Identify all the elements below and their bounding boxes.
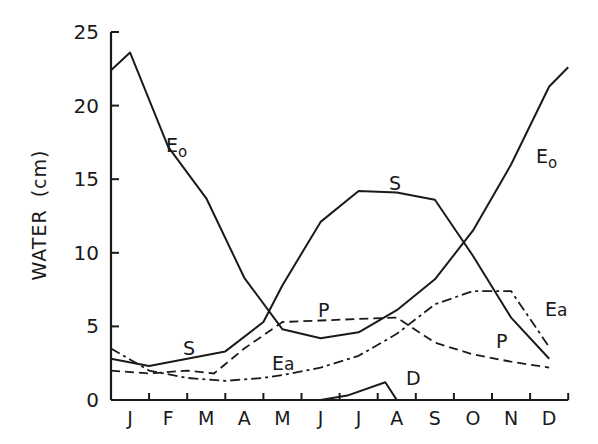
- y-tick-label: 5: [86, 314, 99, 338]
- month-label: D: [542, 407, 557, 429]
- label-ea-left: Ea: [272, 352, 294, 374]
- month-label: A: [238, 407, 251, 429]
- y-axis-label: WATER(cm): [28, 150, 50, 281]
- month-label: O: [465, 407, 480, 429]
- month-label: S: [429, 407, 441, 429]
- month-label: M: [274, 407, 290, 429]
- series-d-line: [321, 382, 397, 400]
- label-d: D: [406, 367, 421, 389]
- series-p-line: [111, 318, 549, 374]
- month-label: A: [390, 407, 403, 429]
- y-axis: 0510152025: [74, 20, 119, 412]
- y-tick-label: 10: [74, 241, 99, 265]
- month-label: J: [355, 407, 362, 429]
- label-eo-right: Eo: [536, 145, 557, 172]
- y-tick-label: 15: [74, 167, 99, 191]
- y-tick-label: 25: [74, 20, 99, 44]
- y-axis-label-main: WATER: [28, 209, 50, 280]
- series-s-line: [111, 191, 549, 366]
- x-axis: JFMAMJJASOND: [111, 393, 568, 429]
- month-label: J: [126, 407, 133, 429]
- water-balance-chart: 0510152025 JFMAMJJASOND WATER(cm) Eo Eo …: [0, 0, 598, 444]
- label-s-peak: S: [389, 172, 401, 194]
- label-p-right: P: [496, 330, 507, 352]
- y-axis-label-unit: (cm): [28, 150, 50, 198]
- y-tick-label: 0: [86, 388, 99, 412]
- month-label: N: [504, 407, 518, 429]
- month-label: M: [198, 407, 214, 429]
- series-eo-line: [111, 53, 568, 339]
- month-label: J: [317, 407, 324, 429]
- label-s-left: S: [183, 337, 195, 359]
- label-ea-right: Ea: [545, 298, 567, 320]
- y-tick-label: 20: [74, 94, 99, 118]
- label-p-left: P: [318, 299, 329, 321]
- month-label: F: [163, 407, 174, 429]
